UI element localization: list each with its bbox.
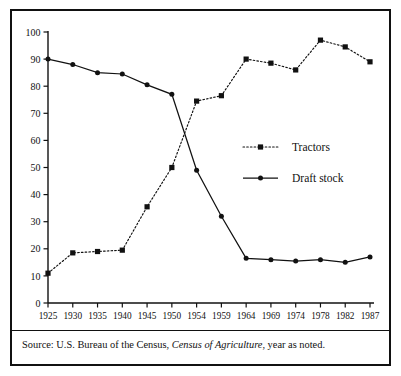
y-axis: 0102030405060708090100 [26, 27, 49, 309]
data-point-tractors [194, 99, 199, 104]
legend-item-tractors[interactable]: Tractors [243, 141, 330, 153]
legend-label: Tractors [292, 141, 330, 153]
series-line-draft-stock [48, 59, 370, 262]
chart-plot-area: 0102030405060708090100 19251930193519401… [0, 0, 401, 376]
y-tick-label: 20 [31, 243, 41, 254]
y-tick-label: 40 [31, 189, 41, 200]
data-point-tractors [120, 248, 125, 253]
y-tick-label: 50 [31, 162, 41, 173]
chart-legend: TractorsDraft stock [243, 141, 344, 184]
legend-marker-swatch [258, 144, 263, 149]
x-tick-label: 1950 [163, 311, 182, 321]
data-point-draft-stock [46, 57, 51, 62]
caption-suffix: , year as noted. [262, 339, 325, 350]
legend-marker-swatch [258, 176, 263, 181]
x-tick-label: 1969 [262, 311, 281, 321]
caption-prefix: Source: U.S. Bureau of the Census, [22, 339, 172, 350]
data-point-draft-stock [368, 254, 373, 259]
data-point-draft-stock [95, 70, 100, 75]
x-tick-label: 1964 [237, 311, 256, 321]
data-point-tractors [343, 44, 348, 49]
data-point-tractors [318, 38, 323, 43]
line-chart: 0102030405060708090100 19251930193519401… [0, 0, 401, 376]
data-point-draft-stock [120, 72, 125, 77]
y-tick-label: 90 [31, 54, 41, 65]
data-point-draft-stock [268, 257, 273, 262]
data-point-tractors [95, 249, 100, 254]
data-point-tractors [169, 165, 174, 170]
data-point-draft-stock [343, 260, 348, 265]
x-tick-label: 1935 [88, 311, 107, 321]
y-tick-label: 0 [36, 298, 41, 309]
data-point-draft-stock [318, 257, 323, 262]
x-tick-label: 1954 [187, 311, 206, 321]
x-tick-label: 1930 [63, 311, 82, 321]
x-tick-label: 1925 [39, 311, 58, 321]
x-tick-label: 1978 [311, 311, 330, 321]
data-point-draft-stock [145, 82, 150, 87]
y-tick-label: 30 [31, 216, 41, 227]
data-point-draft-stock [169, 92, 174, 97]
legend-label: Draft stock [292, 172, 344, 184]
data-point-draft-stock [293, 259, 298, 264]
x-axis: 1925193019351940194519501954195919641969… [39, 303, 380, 321]
data-point-draft-stock [70, 62, 75, 67]
source-caption: Source: U.S. Bureau of the Census, Censu… [22, 338, 384, 351]
data-point-tractors [367, 59, 372, 64]
x-tick-label: 1982 [336, 311, 355, 321]
y-tick-label: 70 [31, 108, 41, 119]
x-tick-label: 1974 [286, 311, 305, 321]
caption-italic-title: Census of Agriculture [172, 339, 263, 350]
data-point-draft-stock [219, 214, 224, 219]
data-point-tractors [293, 67, 298, 72]
x-tick-label: 1987 [361, 311, 380, 321]
data-point-draft-stock [244, 256, 249, 261]
data-point-tractors [70, 250, 75, 255]
legend-item-draft-stock[interactable]: Draft stock [243, 172, 344, 184]
data-point-tractors [244, 57, 249, 62]
x-tick-label: 1959 [212, 311, 231, 321]
y-tick-label: 100 [26, 27, 41, 38]
data-point-tractors [219, 93, 224, 98]
data-point-tractors [45, 271, 50, 276]
data-point-tractors [268, 61, 273, 66]
x-tick-label: 1945 [138, 311, 157, 321]
y-tick-label: 10 [31, 271, 41, 282]
data-point-tractors [144, 204, 149, 209]
figure-container: 0102030405060708090100 19251930193519401… [0, 0, 401, 376]
x-tick-label: 1940 [113, 311, 132, 321]
y-tick-label: 60 [31, 135, 41, 146]
caption-divider [12, 330, 389, 331]
y-tick-label: 80 [31, 81, 41, 92]
data-point-draft-stock [194, 168, 199, 173]
series-line-tractors [48, 40, 370, 273]
data-series-group [45, 38, 372, 276]
